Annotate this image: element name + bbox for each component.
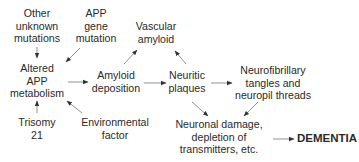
node-amyloid-deposition: Amyloid deposition [92,69,140,94]
node-vascular-amyloid: Vascular amyloid [136,20,176,45]
node-label-line: DEMENTIA [297,132,357,145]
node-label-line: factor [81,129,149,142]
arrow-neuritic-to-vascular [175,51,186,64]
node-label-line: Neurofibrillary [235,64,311,77]
node-label-line: metabolism [10,87,64,100]
node-altered-app-metabolism: Altered APP metabolism [10,62,64,100]
node-label-line: APP [10,75,64,88]
node-other-unknown-mutations: Other unknown mutations [14,7,60,45]
node-label-line: Other [14,7,60,20]
arrow-app-to-altered [66,48,80,62]
node-label-line: Amyloid [92,69,140,82]
node-label-line: transmitters, etc. [175,143,262,156]
node-label-line: Vascular [136,20,176,33]
node-label-line: deposition [92,82,140,95]
arrow-neurofibrillary-to-neuronal [244,102,258,116]
node-label-line: mutation [76,32,117,45]
node-environmental-factor: Environmental factor [81,116,149,141]
node-neuritic-plaques: Neuritic plaques [168,69,205,94]
node-label-line: Trisomy [18,116,55,129]
node-label-line: gene [76,20,117,33]
node-label-line: tangles and [235,77,311,90]
node-label-line: Neuritic [168,69,205,82]
node-label-line: Environmental [81,116,149,129]
arrow-amyloid-to-vascular [124,50,137,64]
node-label-line: mutations [14,32,60,45]
node-label-line: neuropil threads [235,89,311,102]
node-dementia: DEMENTIA [297,132,357,145]
node-label-line: plaques [168,82,205,95]
node-label-line: APP [76,7,117,20]
node-neuronal-damage: Neuronal damage, depletion of transmitte… [175,118,262,156]
node-label-line: unknown [14,20,60,33]
node-app-gene-mutation: APP gene mutation [76,7,117,45]
node-label-line: amyloid [136,33,176,46]
arrow-neuritic-to-neuronal [192,102,208,116]
node-trisomy-21: Trisomy 21 [18,116,55,141]
node-label-line: Neuronal damage, [175,118,262,131]
node-label-line: 21 [18,129,55,142]
node-label-line: Altered [10,62,64,75]
pathogenesis-diagram: Other unknown mutations APP gene mutatio… [0,0,359,162]
arrow-env-to-altered [67,101,82,113]
node-label-line: depletion of [175,131,262,144]
node-neurofibrillary-tangles: Neurofibrillary tangles and neuropil thr… [235,64,311,102]
